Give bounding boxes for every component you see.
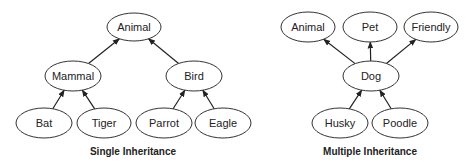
inheritance-arrow-tiger-to-mammal — [82, 90, 94, 109]
inheritance-arrow-bat-to-mammal — [53, 90, 64, 109]
class-node-husky: Husky — [312, 108, 368, 138]
node-label: Parrot — [149, 117, 179, 129]
class-node-eagle: Eagle — [195, 108, 251, 138]
node-label: Pet — [362, 21, 379, 33]
node-label: Animal — [117, 21, 151, 33]
inheritance-diagram-canvas: AnimalMammalBirdBatTigerParrotEagleAnima… — [0, 0, 466, 165]
node-label: Bat — [36, 117, 53, 129]
inheritance-arrow-parrot-to-bird — [173, 90, 185, 109]
class-node-bird: Bird — [166, 61, 222, 91]
class-node-animal: Animal — [107, 13, 161, 41]
class-node-tiger: Tiger — [77, 108, 131, 138]
node-label: Animal — [291, 21, 325, 33]
node-label: Mammal — [52, 70, 94, 82]
node-label: Dog — [361, 70, 381, 82]
node-label: Bird — [184, 70, 204, 82]
node-label: Husky — [325, 117, 356, 129]
inheritance-arrow-dog-to-friendly — [386, 39, 415, 63]
class-node-bat: Bat — [16, 108, 72, 138]
single-inheritance-caption: Single Inheritance — [90, 146, 176, 157]
node-label: Friendly — [411, 21, 451, 33]
inheritance-arrow-mammal-to-animal — [89, 39, 120, 64]
class-node-parrot: Parrot — [136, 108, 192, 138]
class-node-pet: Pet — [343, 12, 397, 42]
inheritance-arrow-bird-to-animal — [149, 39, 179, 64]
inheritance-arrow-poodle-to-dog — [380, 90, 391, 109]
node-label: Eagle — [209, 117, 237, 129]
class-node-dog: Dog — [343, 61, 399, 91]
inheritance-arrow-dog-to-animal2 — [324, 39, 355, 63]
class-node-animal: Animal — [281, 12, 335, 42]
class-node-friendly: Friendly — [404, 12, 458, 42]
node-label: Poodle — [383, 117, 417, 129]
inheritance-arrow-eagle-to-bird — [203, 90, 214, 109]
node-label: Tiger — [92, 117, 117, 129]
nodes-layer: AnimalMammalBirdBatTigerParrotEagleAnima… — [16, 12, 458, 138]
class-node-poodle: Poodle — [372, 108, 428, 138]
inheritance-arrow-husky-to-dog — [349, 90, 361, 109]
class-node-mammal: Mammal — [45, 61, 101, 91]
multiple-inheritance-caption: Multiple Inheritance — [323, 146, 417, 157]
